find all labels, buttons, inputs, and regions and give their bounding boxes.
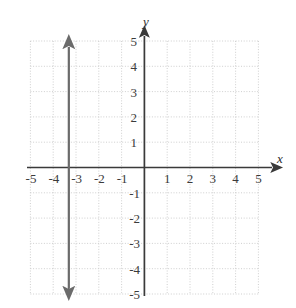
x-tick-label: 2	[187, 171, 194, 186]
y-tick-label: 1	[131, 135, 138, 150]
y-tick-label: -1	[129, 186, 140, 201]
y-axis-label: y	[141, 14, 149, 29]
x-tick-label: 3	[210, 171, 217, 186]
y-tick-label: 2	[131, 110, 138, 125]
coordinate-plane-figure: -5 -4 -3 -2 -1 1 2 3 4 5 5 4 3 2 1 -1 -2…	[0, 0, 296, 308]
x-tick-label: -4	[48, 171, 59, 186]
x-tick-label: 1	[164, 171, 171, 186]
x-tick-label: 5	[255, 171, 262, 186]
x-tick-label: -2	[94, 171, 105, 186]
y-tick-label: 3	[131, 85, 138, 100]
x-tick-label: -3	[71, 171, 82, 186]
x-tick-label: 4	[232, 171, 239, 186]
y-tick-label: -5	[129, 287, 140, 302]
graph-svg: -5 -4 -3 -2 -1 1 2 3 4 5 5 4 3 2 1 -1 -2…	[0, 0, 296, 308]
y-tick-label: -2	[129, 211, 140, 226]
y-tick-label: -4	[129, 262, 140, 277]
y-tick-label: 4	[131, 59, 138, 74]
y-tick-label: 5	[131, 34, 138, 49]
x-axis-label: x	[276, 151, 283, 166]
y-tick-label: -3	[129, 236, 140, 251]
x-tick-label: -5	[26, 171, 37, 186]
x-tick-label: -1	[117, 171, 128, 186]
